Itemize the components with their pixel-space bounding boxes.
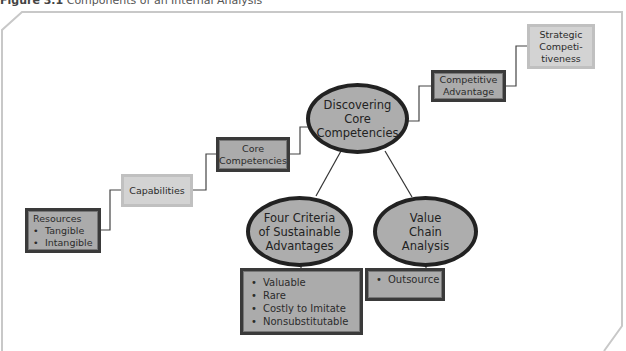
node-value-chain-analysis: Value Chain Analysis bbox=[373, 196, 478, 267]
node-label: Advantages bbox=[265, 239, 333, 253]
node-label: Analysis bbox=[402, 239, 449, 253]
connector-discovering-advantage bbox=[406, 86, 431, 121]
list-item: Rare bbox=[251, 289, 348, 302]
value-chain-items: Outsource bbox=[376, 274, 439, 286]
node-capabilities: Capabilities bbox=[121, 174, 193, 207]
node-label: Competencies bbox=[219, 155, 287, 167]
node-competitive-advantage: Competitive Advantage bbox=[431, 70, 506, 102]
node-heading: Resources bbox=[33, 213, 82, 225]
connector-core-discovering bbox=[289, 127, 308, 154]
node-label: Capabilities bbox=[129, 185, 184, 197]
list-item: Nonsubstitutable bbox=[251, 315, 348, 328]
node-label: Chain bbox=[409, 225, 442, 239]
node-label: of Sustainable bbox=[259, 225, 341, 239]
node-label: tiveness bbox=[541, 53, 581, 65]
node-four-criteria: Four Criteria of Sustainable Advantages bbox=[246, 196, 353, 267]
list-item: Costly to Imitate bbox=[251, 302, 348, 315]
list-item: Valuable bbox=[251, 276, 348, 289]
node-label: Four Criteria bbox=[264, 211, 335, 225]
list-item: Intangible bbox=[33, 237, 93, 249]
node-label: Core bbox=[344, 112, 371, 126]
list-item: Outsource bbox=[376, 274, 439, 286]
criteria-items: Valuable Rare Costly to Imitate Nonsubst… bbox=[251, 276, 348, 328]
node-criteria-list: Valuable Rare Costly to Imitate Nonsubst… bbox=[240, 268, 363, 335]
node-label: Core bbox=[242, 143, 264, 155]
connector-capabilities-core bbox=[193, 154, 216, 190]
node-label: Strategic bbox=[540, 29, 583, 41]
node-resources: Resources Tangible Intangible bbox=[25, 208, 101, 253]
node-label: Discovering bbox=[324, 98, 392, 112]
node-value-chain-list: Outsource bbox=[365, 268, 445, 301]
node-label: Competi- bbox=[539, 41, 582, 53]
node-label: Value bbox=[410, 211, 442, 225]
list-item: Tangible bbox=[33, 225, 93, 237]
connector-discovering-criteria bbox=[316, 151, 341, 196]
node-core-competencies: Core Competencies bbox=[216, 137, 290, 172]
connector-discovering-valuechain bbox=[385, 151, 412, 197]
node-discovering-core-competencies: Discovering Core Competencies bbox=[306, 83, 409, 154]
node-strategic-competitiveness: Strategic Competi- tiveness bbox=[527, 24, 595, 69]
connector-resources-capabilities bbox=[100, 190, 121, 230]
node-label: Advantage bbox=[443, 86, 494, 98]
resources-list: Tangible Intangible bbox=[33, 225, 93, 249]
connector-advantage-strategic bbox=[505, 46, 527, 86]
node-label: Competencies bbox=[316, 126, 398, 140]
node-label: Competitive bbox=[440, 74, 498, 86]
